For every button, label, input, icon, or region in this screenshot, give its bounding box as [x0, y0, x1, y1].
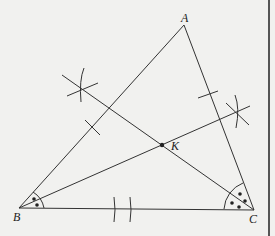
bisector-from-c: [62, 75, 254, 210]
side-ac: [184, 25, 254, 210]
side-bc: [19, 208, 254, 210]
point-k: [160, 143, 164, 147]
label-b: B: [13, 211, 20, 223]
bisector-from-b: [19, 106, 250, 208]
diagram-canvas: A B C K: [0, 0, 275, 236]
tick-ac: [198, 91, 218, 98]
tick-bc-2: [130, 197, 131, 222]
tick-bc-1: [114, 197, 115, 222]
frame-border-right: [268, 0, 270, 236]
label-k: K: [171, 140, 179, 152]
construction-cross-right: [226, 95, 249, 128]
side-ab: [19, 25, 184, 208]
triangle-figure: [0, 0, 275, 236]
label-a: A: [181, 12, 188, 24]
label-c: C: [249, 213, 257, 225]
